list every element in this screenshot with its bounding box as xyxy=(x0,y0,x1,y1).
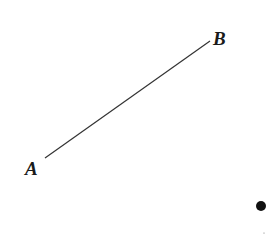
point-label-a: A xyxy=(24,158,38,179)
speck xyxy=(263,232,264,233)
geometry-diagram: B A xyxy=(0,0,266,247)
dot-marker xyxy=(256,201,266,211)
segment-ab xyxy=(45,41,210,158)
point-label-b: B xyxy=(212,28,226,49)
